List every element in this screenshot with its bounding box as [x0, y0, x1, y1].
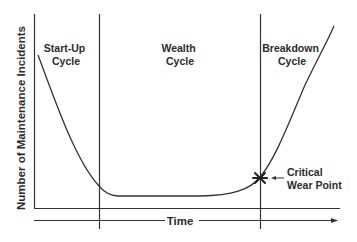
phase-label-wealth: Wealth Cycle — [161, 42, 198, 67]
time-label: Time — [167, 215, 194, 227]
y-axis-label: Number of Maintenance Incidents — [15, 26, 27, 210]
phase-label-startup: Start-Up Cycle — [44, 42, 88, 67]
critical-wear-point-label: Critical Wear Point — [287, 166, 342, 191]
arrow-head-icon — [331, 218, 338, 223]
bathtub-curve-diagram: Number of Maintenance Incidents Time Sta… — [0, 0, 357, 242]
phase-label-breakdown: Breakdown Cycle — [262, 42, 322, 67]
annotation-arrow-head-icon — [271, 176, 276, 180]
